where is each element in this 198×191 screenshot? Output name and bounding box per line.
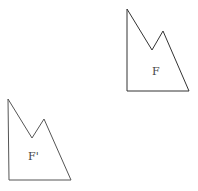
- label-f: F: [152, 65, 160, 78]
- figure-svg: F F': [0, 0, 198, 191]
- shape-f: [127, 9, 189, 91]
- label-f-prime: F': [28, 150, 39, 163]
- diagram-canvas: F F': [0, 0, 198, 191]
- shape-f-prime: [8, 99, 71, 180]
